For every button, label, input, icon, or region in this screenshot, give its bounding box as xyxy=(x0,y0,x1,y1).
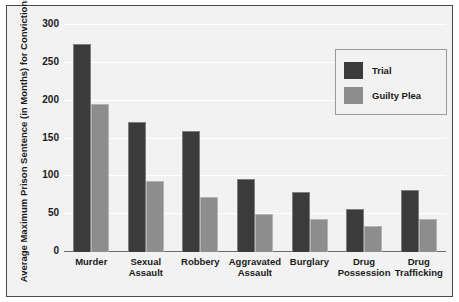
y-tick-label: 300 xyxy=(42,19,59,29)
y-tick-label: 50 xyxy=(48,208,59,218)
y-tick-label: 100 xyxy=(42,170,59,180)
gridline: 50 xyxy=(64,213,446,214)
legend-item-trial: Trial xyxy=(344,62,438,79)
gridline: 300 xyxy=(64,24,446,25)
x-tick-label: DrugTrafficking xyxy=(391,256,446,279)
gridline: 100 xyxy=(64,175,446,176)
x-tick-label: AggravatedAssault xyxy=(228,256,283,279)
gridline: 150 xyxy=(64,138,446,139)
legend-swatch-guilty-plea-icon xyxy=(344,87,363,104)
y-tick-label: 0 xyxy=(53,246,59,256)
y-tick-label: 150 xyxy=(42,133,59,143)
y-axis-title: Average Maximum Prison Sentence (in Mont… xyxy=(11,25,37,252)
x-axis-line: 0 xyxy=(64,251,446,252)
x-tick-label: Burglary xyxy=(282,256,337,279)
legend-label-trial: Trial xyxy=(372,65,392,76)
y-axis-title-text: Average Maximum Prison Sentence (in Mont… xyxy=(18,0,30,282)
x-tick-label: Murder xyxy=(64,256,119,279)
x-axis-labels: MurderSexualAssaultRobberyAggravatedAssa… xyxy=(64,256,446,279)
legend-item-guilty-plea: Guilty Plea xyxy=(344,87,438,104)
chart-frame: Average Maximum Prison Sentence (in Mont… xyxy=(6,5,453,297)
y-tick-label: 200 xyxy=(42,95,59,105)
x-tick-label: SexualAssault xyxy=(119,256,174,279)
legend-label-guilty-plea: Guilty Plea xyxy=(372,90,421,101)
y-tick-label: 250 xyxy=(42,57,59,67)
chart-legend: Trial Guilty Plea xyxy=(335,49,447,115)
x-tick-label: Robbery xyxy=(173,256,228,279)
legend-swatch-trial-icon xyxy=(344,62,363,79)
x-tick-label: DrugPossession xyxy=(337,256,392,279)
